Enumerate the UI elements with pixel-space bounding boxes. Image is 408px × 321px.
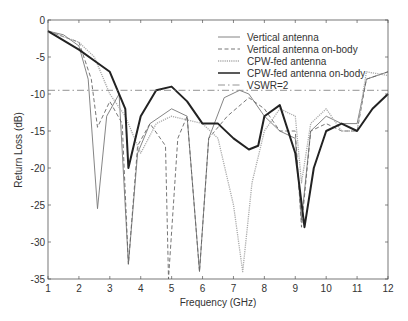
- x-tick-label: 12: [382, 283, 394, 294]
- legend-label: Vertical antenna: [247, 32, 319, 43]
- legend-label: CPW-fed antenna on-body: [247, 68, 365, 79]
- x-tick-label: 3: [107, 283, 113, 294]
- x-tick-label: 10: [321, 283, 333, 294]
- y-tick-label: -5: [36, 52, 45, 63]
- x-tick-label: 8: [262, 283, 268, 294]
- y-tick-label: -20: [31, 163, 46, 174]
- legend-label: Vertical antenna on-body: [247, 44, 358, 55]
- y-tick-label: -25: [31, 200, 46, 211]
- y-tick-label: -10: [31, 89, 46, 100]
- x-tick-label: 5: [169, 283, 175, 294]
- plot-frame: [48, 20, 388, 279]
- y-tick-label: 0: [39, 15, 45, 26]
- y-axis-label: Return Loss (dB): [13, 112, 24, 188]
- axis-ticks: 1234567891011120-5-10-15-20-25-30-35: [31, 15, 394, 294]
- x-tick-label: 7: [231, 283, 237, 294]
- y-tick-label: -30: [31, 237, 46, 248]
- return-loss-chart: 1234567891011120-5-10-15-20-25-30-35 Fre…: [0, 0, 408, 321]
- x-tick-label: 4: [138, 283, 144, 294]
- x-tick-label: 1: [45, 283, 51, 294]
- y-tick-label: -15: [31, 126, 46, 137]
- legend-label: CPW-fed antenna: [247, 56, 327, 67]
- legend-label: VSWR=2: [247, 80, 289, 91]
- y-tick-label: -35: [31, 274, 46, 285]
- x-tick-label: 6: [200, 283, 206, 294]
- x-axis-label: Frequency (GHz): [180, 297, 257, 308]
- x-tick-label: 11: [352, 283, 363, 294]
- x-tick-label: 2: [76, 283, 82, 294]
- legend: Vertical antennaVertical antenna on-body…: [218, 32, 365, 91]
- x-tick-label: 9: [292, 283, 298, 294]
